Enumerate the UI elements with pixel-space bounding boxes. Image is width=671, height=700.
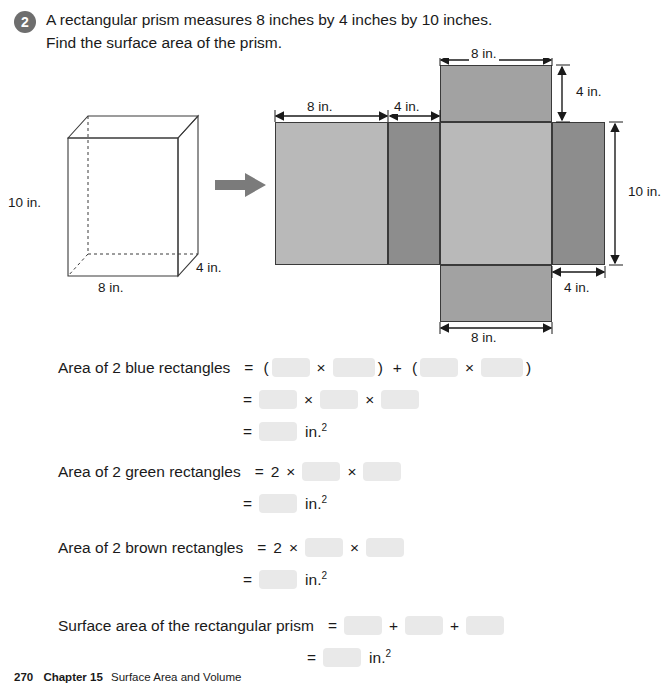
blank-blue-1[interactable] (272, 358, 310, 377)
equals-sign: = (243, 423, 252, 441)
equals-sign: = (257, 539, 266, 557)
coefficient-2: 2 (271, 463, 280, 481)
plus-sign: + (389, 617, 398, 635)
times-sign-2: × (465, 359, 474, 377)
equals-sign: = (328, 617, 337, 635)
right-arrow-icon (215, 172, 267, 198)
unit-label: in.2 (305, 570, 327, 589)
unit-label: in.2 (305, 494, 327, 513)
times-sign-2: × (347, 463, 356, 481)
blank-total-3[interactable] (466, 616, 504, 635)
blank-blue-4[interactable] (481, 358, 523, 377)
prism-width-label: 8 in. (98, 280, 124, 295)
equals-sign: = (243, 391, 252, 409)
blank-blue-7[interactable] (381, 390, 419, 409)
times-sign-2: × (350, 539, 359, 557)
close-paren-2: ) (526, 359, 531, 377)
plus-sign: + (393, 359, 402, 377)
blank-green-1[interactable] (302, 462, 340, 481)
times-sign: × (304, 391, 313, 409)
blue-equation-line-3: = in.2 (236, 422, 327, 441)
unit-label: in.2 (305, 422, 327, 441)
equals-sign: = (244, 359, 253, 377)
question-line-1: A rectangular prism measures 8 inches by… (46, 8, 606, 31)
blank-blue-2[interactable] (333, 358, 375, 377)
net-dim-right-height: 10 in. (626, 184, 663, 199)
prism-depth-label: 4 in. (196, 260, 222, 275)
equals-sign: = (243, 495, 252, 513)
blank-green-2[interactable] (363, 462, 401, 481)
open-paren: ( (263, 359, 268, 377)
blue-label: Area of 2 blue rectangles (58, 359, 230, 377)
total-equation-line-1: Surface area of the rectangular prism = … (58, 616, 504, 635)
close-paren: ) (378, 359, 383, 377)
times-sign: × (286, 463, 295, 481)
green-equation-line-2: = in.2 (236, 494, 327, 513)
blank-brown-answer[interactable] (259, 570, 297, 589)
blank-brown-1[interactable] (305, 538, 343, 557)
blank-total-answer[interactable] (323, 648, 361, 667)
equals-sign: = (307, 649, 316, 667)
total-equation-line-2: = in.2 (300, 648, 391, 667)
green-equation-line-1: Area of 2 green rectangles = 2 × × (58, 462, 401, 481)
net-dim-mid-width: 4 in. (392, 99, 422, 114)
net-dim-top: 8 in. (469, 46, 499, 61)
prism-height-label: 10 in. (8, 195, 41, 210)
total-label: Surface area of the rectangular prism (58, 617, 314, 635)
blank-blue-answer[interactable] (259, 422, 297, 441)
rectangular-prism-figure: 10 in. 8 in. 4 in. (20, 100, 235, 300)
blank-green-answer[interactable] (259, 494, 297, 513)
blank-blue-3[interactable] (420, 358, 458, 377)
times-sign: × (317, 359, 326, 377)
chapter-label: Chapter 15 (43, 671, 102, 683)
brown-equation-line-1: Area of 2 brown rectangles = 2 × × (58, 538, 404, 557)
question-number-badge: 2 (14, 11, 36, 33)
plus-sign-2: + (450, 617, 459, 635)
times-sign: × (289, 539, 298, 557)
page-number: 270 (14, 671, 33, 683)
times-sign-2: × (365, 391, 374, 409)
net-dim-top-height: 4 in. (574, 84, 604, 99)
blank-blue-6[interactable] (320, 390, 358, 409)
page-footer: 270 Chapter 15 Surface Area and Volume (14, 671, 241, 683)
prism-net-figure: 8 in. 8 in. 4 in. 4 in. 10 in. 4 in. 8 i… (262, 58, 662, 340)
net-dim-bottom: 8 in. (469, 330, 499, 345)
unit-label: in.2 (369, 648, 391, 667)
equals-sign: = (243, 571, 252, 589)
net-dim-right-width: 4 in. (562, 280, 592, 295)
brown-equation-line-2: = in.2 (236, 570, 327, 589)
coefficient-2: 2 (273, 539, 282, 557)
blank-blue-5[interactable] (259, 390, 297, 409)
blue-equation-line-2: = × × (236, 390, 419, 409)
blank-total-2[interactable] (405, 616, 443, 635)
blue-equation-line-1: Area of 2 blue rectangles = ( × ) + ( × … (58, 358, 534, 377)
question-line-2: Find the surface area of the prism. (46, 31, 606, 54)
question-text: A rectangular prism measures 8 inches by… (46, 8, 606, 54)
blank-total-1[interactable] (344, 616, 382, 635)
equals-sign: = (255, 463, 264, 481)
net-dim-left-width: 8 in. (305, 99, 335, 114)
brown-label: Area of 2 brown rectangles (58, 539, 243, 557)
green-label: Area of 2 green rectangles (58, 463, 241, 481)
blank-brown-2[interactable] (366, 538, 404, 557)
open-paren-2: ( (412, 359, 417, 377)
chapter-title: Surface Area and Volume (111, 671, 241, 683)
